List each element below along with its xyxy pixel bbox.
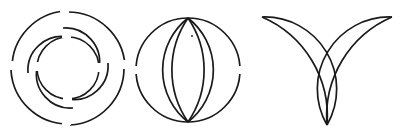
lens-arc-left-outer [163,18,188,122]
crescent-inner-left [262,17,337,125]
figure-2-circle-vesica [136,18,240,122]
figure-1-pinwheel [11,11,125,125]
swirl-arm-se [68,63,108,100]
line-art-canvas [0,0,400,135]
inner-arc-nw [37,37,68,68]
crescent-outer-right [327,17,392,125]
figure-sheet [0,0,400,135]
outer-arm-se [70,68,124,125]
inner-arc-sw [37,68,68,99]
inner-arc-ne [68,37,99,68]
crescent-inner-right [317,17,392,125]
outer-arm-sw [11,70,68,124]
outer-arm-ne [68,12,125,66]
swirl-arm-nw [28,36,68,73]
figure-3-chalice [262,17,392,125]
outer-arm-nw [12,11,66,68]
ink-speck [191,35,193,37]
swirl-arm-ne [63,28,100,68]
inner-arc-se [68,68,99,99]
clipped-caption [168,0,234,3]
crescent-outer-left [262,17,327,125]
lens-arc-right-outer [188,18,213,122]
swirl-arm-sw [36,68,73,108]
